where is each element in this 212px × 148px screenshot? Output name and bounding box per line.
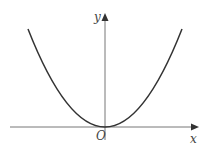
- y-axis: [102, 13, 109, 140]
- x-axis-label: x: [190, 132, 197, 146]
- parabola-diagram: y O x: [0, 0, 212, 148]
- x-axis-arrow-icon: [191, 124, 199, 131]
- origin-label: O: [96, 129, 106, 143]
- y-axis-label: y: [93, 10, 101, 24]
- y-axis-arrow-icon: [102, 13, 109, 21]
